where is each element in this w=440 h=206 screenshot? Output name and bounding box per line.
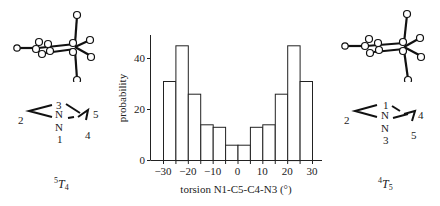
histogram-bar: [263, 125, 275, 161]
right-ring-n-bottom: N: [381, 123, 389, 134]
histogram-bar: [226, 145, 238, 160]
right-molecule-3d-model: [330, 0, 440, 82]
histogram-bar: [250, 127, 262, 160]
histogram-bar: [164, 82, 176, 161]
right-ring-n-top: N: [381, 110, 389, 121]
y-tick-label: 20: [134, 103, 146, 115]
right-ring-atom-2: 2: [344, 115, 350, 126]
histogram-bar: [275, 94, 287, 160]
x-ticks: −30−20−100102030: [154, 161, 318, 178]
histogram-bar: [176, 46, 188, 161]
right-ring-atom-4: 4: [418, 110, 424, 121]
y-ticks: 02040: [134, 52, 151, 166]
x-axis-label: torsion N1-C5-C4-N3 (°): [180, 183, 292, 196]
histogram-bar: [238, 145, 250, 160]
x-tick-label: 20: [282, 165, 294, 177]
histogram-bars: [164, 46, 313, 161]
x-tick-label: 0: [235, 165, 241, 177]
x-tick-label: 10: [257, 165, 269, 177]
y-tick-label: 40: [134, 52, 146, 64]
histogram-bar: [201, 125, 213, 161]
right-ring-atom-5: 5: [411, 130, 417, 141]
histogram-bar: [288, 46, 300, 161]
x-tick-label: 30: [307, 165, 319, 177]
histogram-bar: [188, 94, 200, 160]
y-axis-label: probability: [116, 73, 128, 122]
histogram-bar: [300, 82, 312, 161]
histogram-bar: [213, 127, 225, 160]
y-tick-label: 0: [140, 154, 146, 166]
right-conformer-label: 4T5: [378, 176, 393, 192]
x-tick-label: −20: [179, 165, 197, 177]
x-tick-label: −30: [154, 165, 172, 177]
x-tick-label: −10: [204, 165, 222, 177]
right-ring-atom-3: 3: [383, 135, 389, 146]
